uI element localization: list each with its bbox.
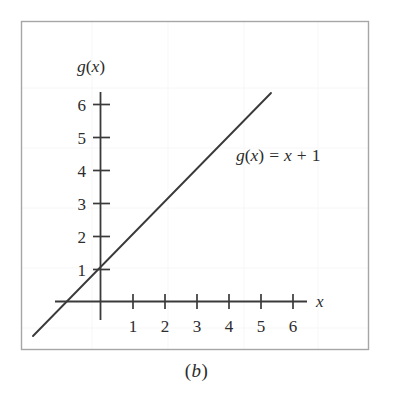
y-tick-label-0: 1 bbox=[78, 261, 87, 280]
eq-term-var: x bbox=[283, 145, 292, 165]
eq-arg: x bbox=[250, 145, 259, 165]
x-tick-label-3: 4 bbox=[225, 317, 234, 336]
y-axis-label-arg: x bbox=[91, 56, 100, 76]
eq-close-paren: ) bbox=[258, 145, 264, 165]
y-tick-label-3: 4 bbox=[78, 162, 87, 181]
x-axis-label: x bbox=[315, 292, 324, 311]
x-tick-label-5: 6 bbox=[289, 317, 298, 336]
figure-caption-letter: b bbox=[192, 360, 202, 381]
figure-container: 1 2 3 4 5 6 1 2 3 4 5 6 x g(x) g(x)=x+1 … bbox=[0, 0, 393, 399]
figure-caption: (b) bbox=[185, 360, 209, 381]
y-axis-label: g(x) bbox=[77, 56, 105, 76]
caption-row: (b) bbox=[0, 360, 393, 382]
y-tick-label-4: 5 bbox=[78, 129, 87, 148]
x-tick-label-4: 5 bbox=[257, 317, 266, 336]
graph-canvas: 1 2 3 4 5 6 1 2 3 4 5 6 x g(x) g(x)=x+1 bbox=[0, 0, 393, 399]
x-tick-label-2: 3 bbox=[193, 317, 202, 336]
page-background bbox=[0, 0, 393, 399]
eq-constant: 1 bbox=[312, 145, 321, 165]
y-axis-label-fn: g bbox=[77, 56, 86, 76]
y-axis-label-close-paren: ) bbox=[99, 56, 105, 76]
eq-equals: = bbox=[269, 145, 279, 165]
x-tick-label-0: 1 bbox=[129, 317, 138, 336]
y-tick-label-2: 3 bbox=[78, 195, 87, 214]
eq-fn-name: g bbox=[236, 145, 245, 165]
x-tick-label-1: 2 bbox=[161, 317, 170, 336]
y-tick-label-1: 2 bbox=[78, 228, 87, 247]
y-tick-label-5: 6 bbox=[78, 96, 87, 115]
eq-plus: + bbox=[297, 145, 307, 165]
